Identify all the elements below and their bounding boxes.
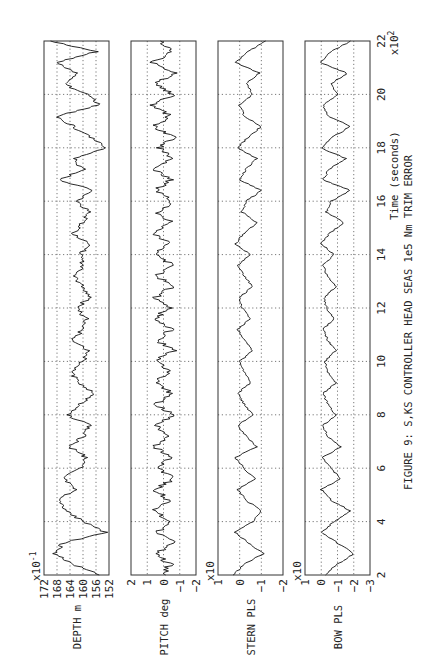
time-tick-label: 10 xyxy=(375,355,388,368)
time-tick-label: 18 xyxy=(375,141,388,154)
time-axis-label: Time (seconds) xyxy=(388,131,400,220)
figure-caption: FIGURE 9: S,KS CONTROLLER HEAD SEAS 1e5 … xyxy=(402,154,414,490)
panels-group xyxy=(44,41,370,575)
time-tick-label: 6 xyxy=(375,465,388,472)
time-tick-label: 16 xyxy=(375,195,388,208)
bow-planes-axis-label: BOW PLS xyxy=(332,605,344,649)
value-tick-label: 152 xyxy=(103,579,116,599)
stern-planes-multiplier: x10 xyxy=(204,561,217,581)
time-tick-label: 8 xyxy=(375,411,388,418)
value-tick-label: 0 xyxy=(234,579,247,586)
value-tick-label: −2 xyxy=(348,579,361,592)
stern-planes-frame xyxy=(218,41,283,575)
value-tick-label: 160 xyxy=(77,579,90,599)
value-tick-label: −1 xyxy=(332,579,345,592)
time-tick-label: 4 xyxy=(375,518,388,525)
value-tick-label: 156 xyxy=(90,579,103,599)
time-multiplier: x102 xyxy=(387,30,401,55)
time-axis: 246810121416182022x102 xyxy=(375,30,401,578)
value-tick-label: 0 xyxy=(158,579,171,586)
value-tick-label: 1 xyxy=(141,579,154,586)
value-tick-label: −1 xyxy=(255,579,268,592)
pitch-panel xyxy=(131,41,196,575)
stern-planes-axis-label: STERN PLS xyxy=(245,599,257,656)
depth-axis-label: DEPTH m xyxy=(71,605,83,649)
time-tick-label: 2 xyxy=(375,572,388,579)
figure-9-chart: 246810121416182022x102 15215616016416817… xyxy=(0,0,432,658)
stern-planes-panel xyxy=(218,41,283,575)
bow-planes-multiplier: x10 xyxy=(291,561,304,581)
value-tick-label: 168 xyxy=(51,579,64,599)
depth-panel xyxy=(44,41,109,575)
value-tick-label: 2 xyxy=(125,579,138,586)
value-tick-label: −2 xyxy=(190,579,203,592)
value-tick-label: 0 xyxy=(315,579,328,586)
value-tick-label: 164 xyxy=(64,579,77,599)
depth-multiplier: x10-1 xyxy=(29,551,43,581)
time-tick-label: 14 xyxy=(375,248,388,262)
time-tick-label: 12 xyxy=(375,301,388,314)
value-tick-label: −3 xyxy=(364,579,377,592)
value-tick-label: −2 xyxy=(277,579,290,592)
time-tick-label: 20 xyxy=(375,88,388,101)
bow-planes-panel xyxy=(305,41,370,575)
value-tick-label: −1 xyxy=(174,579,187,592)
pitch-axis-label: PITCH deg xyxy=(158,599,170,656)
depth-frame xyxy=(44,41,109,575)
